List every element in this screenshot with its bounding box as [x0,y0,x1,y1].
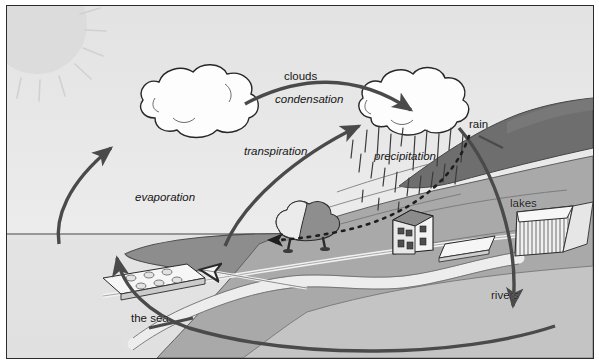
label-lakes: lakes [510,197,537,209]
label-evaporation: evaporation [135,191,195,203]
water-cycle-figure: clouds condensation transpiration precip… [0,0,599,364]
diagram-canvas [7,6,593,358]
figure-frame: clouds condensation transpiration precip… [6,5,594,359]
label-rain: rain [469,118,488,130]
label-condensation: condensation [275,93,343,105]
label-clouds: clouds [284,70,317,82]
label-transpiration: transpiration [244,145,307,157]
house [393,210,433,254]
label-rivers: rivers [491,289,519,301]
label-the-sea: the sea [131,312,169,324]
label-precipitation: precipitation [374,150,436,162]
